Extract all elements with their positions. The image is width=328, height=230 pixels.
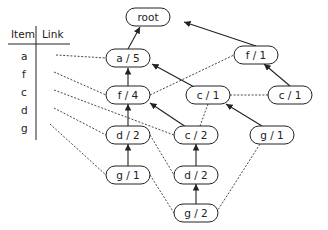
svg-text:d / 2: d / 2 <box>184 169 208 181</box>
svg-text:root: root <box>137 11 158 23</box>
node-d2-left: d / 2 <box>106 126 150 144</box>
item-a: a <box>21 50 27 62</box>
svg-text:c / 1: c / 1 <box>197 89 220 101</box>
header-link: Link <box>42 28 64 40</box>
svg-text:c / 2: c / 2 <box>185 129 208 141</box>
node-g1-right: g / 1 <box>250 126 294 144</box>
item-g: g <box>21 122 28 134</box>
item-f: f <box>22 68 26 80</box>
svg-text:c / 1: c / 1 <box>279 89 302 101</box>
svg-text:g / 1: g / 1 <box>260 129 284 141</box>
svg-text:a / 5: a / 5 <box>116 52 139 64</box>
node-a5: a / 5 <box>106 49 150 67</box>
svg-text:g / 2: g / 2 <box>184 207 208 219</box>
svg-text:f / 1: f / 1 <box>246 49 267 61</box>
item-c: c <box>21 86 27 98</box>
fp-tree-diagram: Item Link a f c d g <box>0 0 328 230</box>
node-f4: f / 4 <box>106 86 150 104</box>
node-g2: g / 2 <box>174 204 218 222</box>
node-g1-left: g / 1 <box>106 166 150 184</box>
header-table: Item Link a f c d g <box>8 26 70 140</box>
node-c1-right: c / 1 <box>268 86 312 104</box>
svg-text:d / 2: d / 2 <box>116 129 140 141</box>
node-c2: c / 2 <box>174 126 218 144</box>
node-links <box>50 55 268 213</box>
node-f1: f / 1 <box>234 46 278 64</box>
node-c1-middle: c / 1 <box>186 86 230 104</box>
item-d: d <box>21 104 28 116</box>
node-root: root <box>126 8 170 26</box>
node-d2-right: d / 2 <box>174 166 218 184</box>
svg-text:f / 4: f / 4 <box>118 89 139 101</box>
svg-text:g / 1: g / 1 <box>116 169 140 181</box>
header-item: Item <box>11 28 35 40</box>
